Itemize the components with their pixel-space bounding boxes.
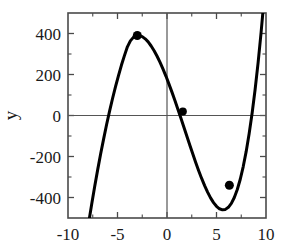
y-axis-title: y	[0, 110, 21, 120]
y-tick-label: -200	[30, 148, 61, 167]
y-tick-label: 400	[36, 25, 62, 44]
x-tick-label: 0	[163, 225, 172, 244]
y-tick-label: 0	[53, 107, 62, 126]
y-axis-title-text: y	[0, 110, 21, 120]
y-tick-label: -400	[30, 189, 61, 208]
plot-canvas: -10-50510 -400-2000200400 y	[0, 0, 281, 250]
x-tick-label: -5	[110, 225, 124, 244]
chart-figure: -10-50510 -400-2000200400 y	[0, 0, 281, 250]
x-tick-label: 5	[212, 225, 221, 244]
x-tick-label: 10	[258, 225, 275, 244]
y-tick-label: 200	[36, 66, 62, 85]
x-tick-label: -10	[57, 225, 80, 244]
